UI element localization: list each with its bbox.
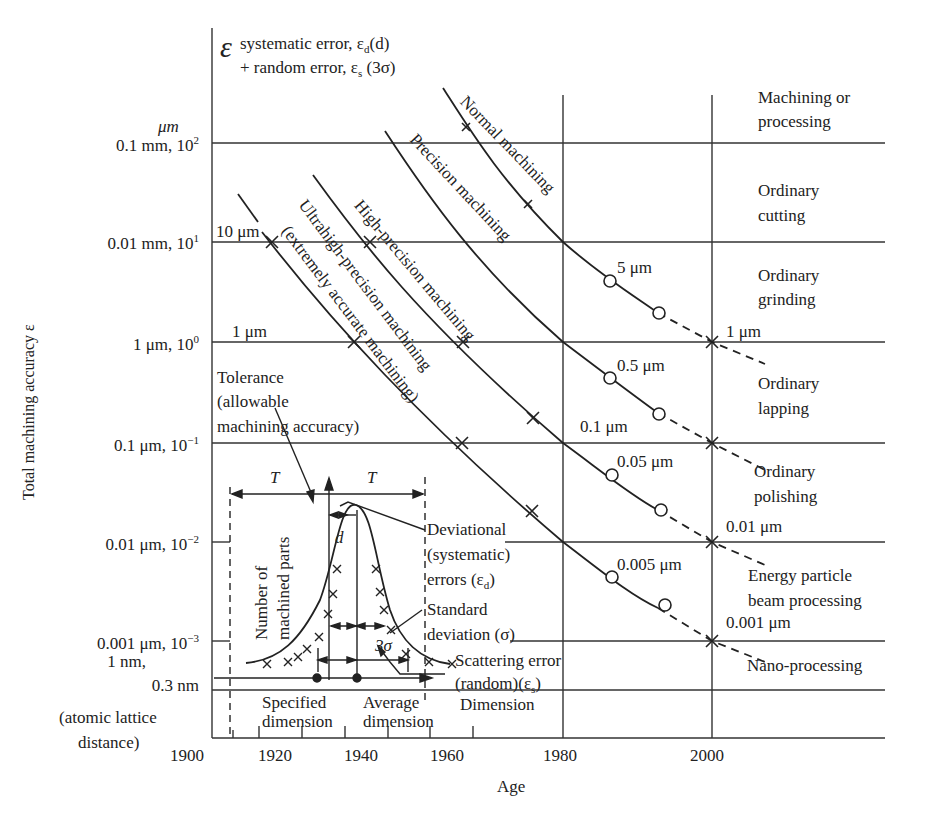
inset-T-right: T [367, 468, 376, 488]
inset-std-1: Standard [427, 600, 487, 620]
y-tick-0.3nm: 0.3 nm [152, 676, 199, 696]
right-energy-2: beam processing [748, 591, 862, 611]
point-label-1um-left: 1 μm [232, 322, 267, 342]
y-atomic-2: distance) [78, 733, 139, 753]
point-label-0.05um: 0.05 μm [617, 452, 673, 472]
curves [238, 88, 765, 662]
x-tick-2000: 2000 [690, 746, 724, 766]
right-cutting-1: Ordinary [758, 181, 819, 201]
inset-scattering-1: Scattering error [455, 651, 561, 671]
header-line2: + random error, εs (3σ) [240, 58, 396, 80]
epsilon-symbol: ε [220, 30, 232, 65]
inset-ylabel-2: machined parts [274, 537, 294, 640]
point-label-0.01um: 0.01 μm [726, 517, 782, 537]
inset-deviational-1: Deviational [427, 520, 506, 540]
inset-deviational-2: (systematic) [427, 545, 510, 565]
inset-tolerance-2: (allowable [217, 392, 289, 412]
point-label-0.005um: 0.005 μm [617, 555, 682, 575]
point-label-0.001um: 0.001 μm [726, 613, 791, 633]
right-cutting-2: cutting [758, 206, 805, 226]
point-label-1um-right: 1 μm [726, 322, 761, 342]
inset-deviational-3: errors (εd) [427, 570, 495, 592]
y-tick-100: 0.1 mm, 102 [116, 134, 199, 155]
inset-ylabel-1: Number of [252, 566, 272, 640]
y-tick-1: 1 μm, 100 [133, 333, 199, 354]
right-machining-1: Machining or [758, 88, 850, 108]
x-axis-title: Age [497, 777, 525, 797]
inset-diagram [214, 408, 450, 738]
inset-specified-1: Specified [262, 693, 326, 713]
inset-std-2: deviation (σ) [427, 625, 515, 645]
x-tick-1940: 1940 [344, 746, 378, 766]
y-tick-10: 0.01 mm, 101 [108, 232, 199, 253]
inset-average-2: dimension [363, 712, 434, 732]
y-tick-1nm: 1 nm, [107, 652, 146, 672]
point-label-5um: 5 μm [617, 258, 652, 278]
point-label-10um: 10 μm [216, 222, 260, 242]
x-tick-1920: 1920 [258, 746, 292, 766]
y-axis-title: Total machining accuracy ε [20, 324, 38, 500]
inset-3sigma: 3σ [375, 636, 392, 656]
right-polishing-2: polishing [754, 487, 817, 507]
y-atomic-1: (atomic lattice [59, 708, 157, 728]
inset-dimension: Dimension [460, 695, 535, 715]
right-lapping-2: lapping [758, 399, 809, 419]
y-tick-0.1: 0.1 μm, 10−1 [114, 434, 199, 455]
y-tick-0.01: 0.01 μm, 10−2 [105, 533, 199, 554]
right-machining-2: processing [758, 112, 831, 132]
x-tick-1900: 1900 [170, 746, 204, 766]
right-energy-1: Energy particle [748, 566, 852, 586]
right-lapping-1: Ordinary [758, 374, 819, 394]
x-tick-1980: 1980 [543, 746, 577, 766]
inset-T-left: T [270, 468, 279, 488]
point-label-0.5um: 0.5 μm [617, 356, 665, 376]
curve-ultrahigh-precision-upper [238, 194, 258, 222]
right-grinding-1: Ordinary [758, 266, 819, 286]
inset-average-1: Average [363, 693, 419, 713]
right-polishing-1: Ordinary [754, 462, 815, 482]
inset-scattering-2: (random)(εs) [455, 674, 541, 696]
point-label-0.1um: 0.1 μm [580, 417, 628, 437]
y-tick-0.001: 0.001 μm, 10−3 [97, 632, 199, 653]
inset-tolerance-1: Tolerance [217, 368, 284, 388]
right-grinding-2: grinding [758, 290, 816, 310]
header-line1: systematic error, εd(d) [240, 34, 389, 56]
inset-tolerance-3: machining accuracy) [217, 417, 359, 437]
inset-specified-2: dimension [262, 712, 333, 732]
inset-d: d [335, 528, 344, 548]
x-tick-1960: 1960 [430, 746, 464, 766]
right-nano: Nano-processing [747, 656, 862, 676]
